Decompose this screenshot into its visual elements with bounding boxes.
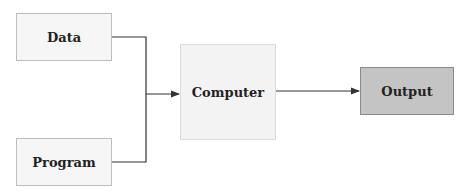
- node-data: Data: [16, 13, 112, 61]
- node-label: Output: [381, 84, 432, 99]
- node-label: Data: [47, 30, 81, 45]
- node-program: Program: [16, 138, 112, 186]
- node-computer: Computer: [180, 44, 276, 140]
- flow-diagram: Data Program Computer Output: [0, 0, 465, 194]
- edge-data-merge: [112, 37, 146, 162]
- node-label: Computer: [192, 85, 264, 100]
- node-output: Output: [360, 67, 454, 115]
- node-label: Program: [32, 155, 95, 170]
